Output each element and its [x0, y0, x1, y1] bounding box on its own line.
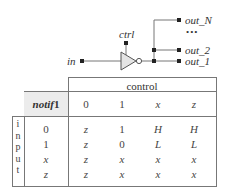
- table-cell: H: [143, 124, 173, 135]
- table-cell: z: [71, 139, 101, 150]
- row-input: x: [31, 154, 61, 165]
- col-header: 0: [71, 99, 101, 110]
- col-header: 1: [107, 99, 137, 110]
- gate-name: notif1: [24, 98, 68, 110]
- table-cell: L: [143, 139, 173, 150]
- table-cell: x: [179, 169, 209, 180]
- row-input: 0: [31, 124, 61, 135]
- control-header: control: [68, 80, 216, 92]
- table-cell: z: [71, 124, 101, 135]
- table-cell: x: [107, 154, 137, 165]
- table-cell: z: [71, 169, 101, 180]
- table-cell: L: [179, 139, 209, 150]
- table-cell: x: [107, 169, 137, 180]
- table-cell: H: [179, 124, 209, 135]
- col-header: x: [143, 99, 173, 110]
- truth-table: notif1 control i n p u t 0 1 x z 0 z 1 H…: [0, 0, 227, 194]
- table-cell: x: [143, 169, 173, 180]
- table-cell: 0: [107, 139, 137, 150]
- row-input: z: [31, 169, 61, 180]
- table-cell: x: [143, 154, 173, 165]
- table-cell: x: [179, 154, 209, 165]
- col-header: z: [179, 99, 209, 110]
- table-cell: z: [71, 154, 101, 165]
- table-cell: 1: [107, 124, 137, 135]
- input-header: i n p u t: [12, 118, 24, 176]
- row-input: 1: [31, 139, 61, 150]
